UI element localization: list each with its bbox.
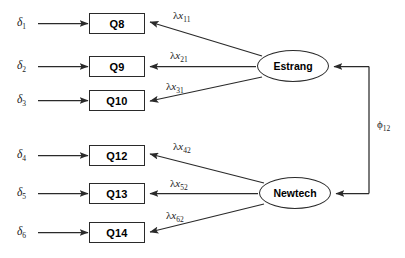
loading-label-lambda-x11: λx11 — [173, 9, 190, 24]
error-arrow-group — [38, 24, 88, 233]
latent-ellipse-newtech: Newtech — [259, 177, 331, 209]
error-label-delta6: δ6 — [17, 225, 26, 240]
indicator-box-q12: Q12 — [89, 145, 145, 166]
loading-label-lambda-x42: λx42 — [173, 140, 191, 155]
indicator-box-q14: Q14 — [89, 222, 145, 243]
indicator-box-q8: Q8 — [89, 13, 145, 34]
sem-path-diagram-canvas — [0, 0, 405, 258]
error-label-delta4: δ4 — [17, 148, 26, 163]
loading-label-lambda-x52: λx52 — [170, 177, 188, 192]
covariance-label-phi12: ϕ12 — [377, 118, 390, 133]
loading-label-lambda-x62: λx62 — [166, 209, 184, 224]
error-label-delta1: δ1 — [17, 16, 26, 31]
loading-arrow-estrang-q8 — [150, 22, 262, 56]
error-label-delta5: δ5 — [17, 186, 26, 201]
covariance-path-phi12 — [334, 67, 369, 194]
error-label-delta2: δ2 — [17, 59, 26, 74]
loading-label-lambda-x21: λx21 — [170, 49, 188, 64]
loading-label-lambda-x31: λx31 — [166, 80, 184, 95]
loading-arrow-newtech-q12 — [150, 154, 264, 183]
latent-ellipse-estrang: Estrang — [257, 50, 329, 82]
indicator-box-q13: Q13 — [89, 183, 145, 204]
indicator-box-q10: Q10 — [89, 90, 145, 111]
error-label-delta3: δ3 — [17, 93, 26, 108]
indicator-box-q9: Q9 — [89, 56, 145, 77]
